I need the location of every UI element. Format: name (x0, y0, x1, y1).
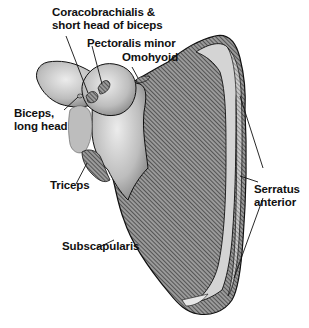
label-omohyoid: Omohyoid (122, 51, 178, 64)
biceps-long-head-attachment (78, 94, 83, 98)
label-triceps: Triceps (50, 179, 90, 192)
glenoid-region (82, 64, 136, 116)
scapula-diagram: Coracobrachialis & short head of biceps … (0, 0, 309, 328)
glenoid-fossa (69, 106, 93, 153)
label-pectoralis-minor: Pectoralis minor (87, 37, 176, 50)
label-serratus-anterior: Serratus anterior (254, 183, 300, 208)
label-coracobrachialis: Coracobrachialis & short head of biceps (52, 6, 162, 31)
label-biceps-long-head: Biceps, long head (14, 107, 67, 132)
label-subscapularis: Subscapularis (62, 240, 139, 253)
